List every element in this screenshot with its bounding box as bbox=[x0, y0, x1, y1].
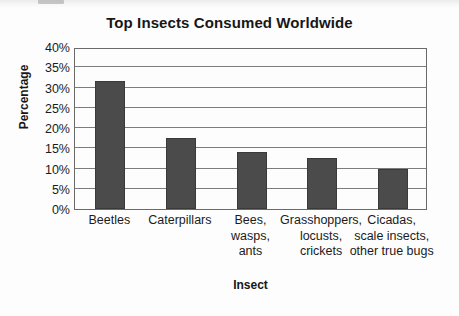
bar-3 bbox=[237, 152, 267, 209]
y-tick-label-0pct: 0% bbox=[26, 203, 70, 217]
category-label-line: Cicadas, bbox=[348, 213, 435, 229]
y-tick-label-25pct: 25% bbox=[26, 102, 70, 116]
scan-edge-artifact bbox=[0, 0, 459, 8]
bar-1 bbox=[95, 81, 125, 209]
category-label-5: Cicadas,scale insects,other true bugs bbox=[348, 213, 435, 260]
bar-5 bbox=[378, 169, 408, 210]
category-label-line: other true bugs bbox=[348, 244, 435, 260]
y-axis-tick-labels: 40%35%30%25%20%15%10%5%0% bbox=[26, 48, 70, 210]
gridline-25 bbox=[75, 107, 426, 108]
y-tick-label-5pct: 5% bbox=[26, 183, 70, 197]
bar-chart: Top Insects Consumed Worldwide Percentag… bbox=[0, 0, 459, 316]
chart-title: Top Insects Consumed Worldwide bbox=[0, 14, 459, 31]
y-tick-label-20pct: 20% bbox=[26, 122, 70, 136]
bar-4 bbox=[307, 158, 337, 209]
scan-blot-artifact bbox=[38, 0, 64, 4]
category-label-line: scale insects, bbox=[348, 229, 435, 245]
gridline-35 bbox=[75, 66, 426, 67]
y-tick-label-30pct: 30% bbox=[26, 82, 70, 96]
y-tick-label-15pct: 15% bbox=[26, 142, 70, 156]
y-tick-label-40pct: 40% bbox=[26, 41, 70, 55]
gridline-30 bbox=[75, 87, 426, 88]
y-tick-label-10pct: 10% bbox=[26, 163, 70, 177]
gridline-15 bbox=[75, 147, 426, 148]
y-tick-label-35pct: 35% bbox=[26, 61, 70, 75]
x-axis-title: Insect bbox=[74, 278, 427, 292]
x-axis-category-labels: BeetlesCaterpillarsBees,wasps,antsGrassh… bbox=[74, 213, 427, 271]
gridline-20 bbox=[75, 127, 426, 128]
plot-area bbox=[74, 48, 427, 210]
bar-2 bbox=[166, 138, 196, 209]
